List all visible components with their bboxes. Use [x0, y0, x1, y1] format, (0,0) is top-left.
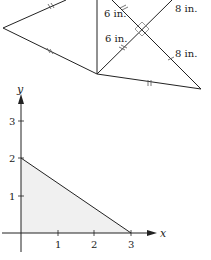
kite-figure — [3, 0, 201, 89]
y-tick-1: 1 — [9, 191, 15, 202]
x-axis-arrow-icon — [147, 230, 157, 236]
coordinate-graph: 1 2 3 1 2 3 x y — [2, 83, 167, 252]
edge-top-left — [3, 0, 66, 28]
y-tick-2: 2 — [9, 153, 15, 164]
y-tick-3: 3 — [9, 116, 15, 127]
label-6in-lower: 6 in. — [105, 33, 127, 44]
x-tick-3: 3 — [128, 239, 134, 250]
x-tick-2: 2 — [91, 239, 97, 250]
edge-bottom-left — [3, 28, 97, 74]
label-6in-upper: 6 in. — [104, 8, 126, 19]
y-axis-label: y — [16, 83, 24, 96]
label-8in-upper: 8 in. — [175, 3, 197, 14]
edge-bottom-right — [97, 74, 201, 89]
x-axis-label: x — [160, 227, 167, 240]
diagram-canvas: 6 in. 6 in. 8 in. 8 in. 1 2 3 1 2 3 x — [0, 0, 211, 260]
x-tick-1: 1 — [55, 239, 61, 250]
label-8in-lower: 8 in. — [175, 48, 197, 59]
